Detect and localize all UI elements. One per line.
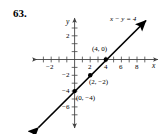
y-axis — [72, 18, 78, 128]
point-label-4-0: (4, 0) — [92, 46, 107, 53]
plotted-line — [39, 21, 147, 128]
y-tick-label-neg6: −6 — [62, 104, 69, 111]
y-tick-label-neg2: −2 — [62, 72, 69, 79]
x-tick-label-neg2: −2 — [46, 64, 53, 71]
graph-svg — [0, 0, 164, 134]
x-tick-label-4: 4 — [104, 64, 108, 71]
x-axis-label: x — [152, 62, 155, 70]
point-label-2-neg2: (2, −2) — [89, 79, 108, 86]
point-label-0-neg4: (0, −4) — [76, 95, 95, 102]
figure-root: 63. — [0, 0, 164, 134]
x-tick-label-2: 2 — [88, 64, 92, 71]
equation-label: x − y = 4 — [110, 16, 136, 23]
x-axis — [33, 57, 158, 63]
y-axis-label: y — [66, 18, 69, 26]
x-tick-label-8: 8 — [135, 64, 139, 71]
point-2-neg2 — [88, 73, 92, 77]
y-tick-label-2: 2 — [66, 33, 70, 40]
y-tick-label-neg4: −4 — [62, 88, 69, 95]
point-0-neg4 — [72, 89, 76, 93]
point-4-0 — [104, 57, 108, 61]
coordinate-plane: y x −2 2 4 6 8 2 −2 −4 −6 (4, 0) (2, −2)… — [0, 0, 164, 134]
x-tick-label-6: 6 — [119, 64, 123, 71]
